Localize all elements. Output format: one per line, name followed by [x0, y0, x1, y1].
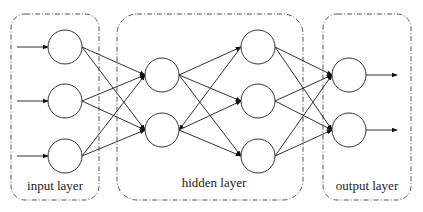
output-layer-label: output layer [336, 178, 399, 193]
connection-arrow [82, 130, 145, 156]
hidden2-neuron [241, 84, 275, 118]
neural-network-diagram: input layer hidden layer output layer [0, 0, 423, 212]
hidden2-neuron [241, 139, 275, 173]
connection-arrow [82, 47, 145, 75]
connection-arrow [179, 130, 241, 156]
hidden1-neuron [145, 113, 179, 147]
connection-arrow [179, 47, 241, 130]
output-layer-box [323, 14, 411, 200]
output-neuron [332, 58, 366, 92]
layer-labels: input layer hidden layer output layer [27, 175, 399, 193]
output-neuron [332, 113, 366, 147]
input-neuron [48, 139, 82, 173]
connections [82, 47, 332, 156]
neurons [48, 30, 366, 173]
input-layer-label: input layer [27, 178, 84, 193]
input-neuron [48, 30, 82, 64]
hidden-layer-box [117, 14, 303, 200]
connection-arrow [179, 47, 241, 75]
input-neuron [48, 84, 82, 118]
hidden-layer-label: hidden layer [182, 175, 247, 190]
connection-arrow [179, 101, 241, 130]
hidden1-neuron [145, 58, 179, 92]
hidden2-neuron [241, 30, 275, 64]
connection-arrow [82, 75, 145, 156]
connection-arrow [82, 75, 145, 101]
